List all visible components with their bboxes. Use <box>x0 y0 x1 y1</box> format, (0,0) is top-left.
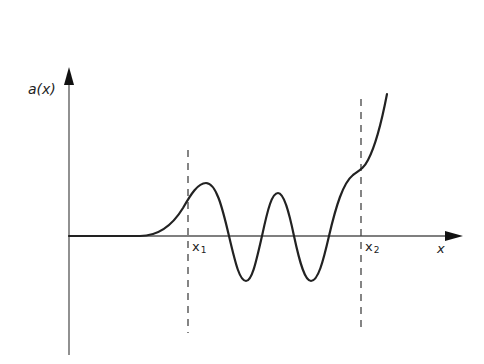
x-axis-arrow-icon <box>445 231 463 241</box>
function-curve <box>69 94 387 281</box>
x2-marker-label: x2 <box>365 240 379 255</box>
function-plot: a(x) x x1 x2 <box>0 0 484 364</box>
x1-marker-subscript: 1 <box>201 245 207 255</box>
x2-marker-subscript: 2 <box>374 245 380 255</box>
y-axis-label: a(x) <box>28 82 56 96</box>
x-axis-label: x <box>437 242 445 255</box>
x1-marker-name: x <box>192 239 200 254</box>
plot-canvas <box>0 0 484 364</box>
y-axis-arrow-icon <box>64 67 74 85</box>
x2-marker-name: x <box>365 239 373 254</box>
x1-marker-label: x1 <box>192 240 206 255</box>
